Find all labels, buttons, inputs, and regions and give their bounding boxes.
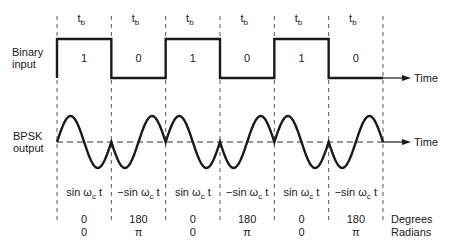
phase-radian-labels: 0π0π0π <box>81 226 360 238</box>
time-arrow-binary-icon <box>402 75 411 81</box>
bit-period-label: tb <box>132 12 140 27</box>
bit-period-label: tb <box>186 12 194 27</box>
phase-radian-value: π <box>352 226 360 238</box>
binary-input-label-line1: Binary <box>12 46 44 58</box>
degrees-label: Degrees <box>391 213 433 225</box>
bpsk-diagram: tbtbtbtbtbtb Binary input 101010 Time BP… <box>0 0 453 250</box>
phase-degree-value: 180 <box>238 213 256 225</box>
bit-period-label: tb <box>240 12 248 27</box>
bit-period-label: tb <box>349 12 357 27</box>
bit-value-label: 1 <box>190 52 196 64</box>
phase-radian-value: 0 <box>190 226 196 238</box>
bit-period-labels: tbtbtbtbtbtb <box>77 12 357 27</box>
bit-value-label: 0 <box>135 52 141 64</box>
signal-expression-label: sin ωc t <box>66 186 102 201</box>
phase-degree-value: 180 <box>347 213 365 225</box>
signal-expression-label: −sin ωc t <box>335 186 377 201</box>
radians-label: Radians <box>391 226 432 238</box>
phase-degree-labels: 018001800180 <box>81 213 365 225</box>
bit-value-label: 0 <box>353 52 359 64</box>
phase-degree-value: 0 <box>81 213 87 225</box>
phase-radian-value: π <box>243 226 251 238</box>
bit-value-label: 1 <box>81 52 87 64</box>
signal-expression-label: sin ωc t <box>175 186 211 201</box>
signal-expression-label: −sin ωc t <box>117 186 159 201</box>
bpsk-output-label-line1: BPSK <box>13 130 43 142</box>
time-arrow-bpsk-icon <box>402 139 411 145</box>
bit-value-label: 1 <box>298 52 304 64</box>
bit-value-label: 0 <box>244 52 250 64</box>
time-label-bpsk: Time <box>414 136 438 148</box>
phase-degree-value: 180 <box>129 213 147 225</box>
bit-period-label: tb <box>295 12 303 27</box>
binary-input-label-line2: input <box>12 58 36 70</box>
phase-radian-value: 0 <box>81 226 87 238</box>
signal-expression-labels: sin ωc t−sin ωc tsin ωc t−sin ωc tsin ωc… <box>66 186 377 201</box>
phase-radian-value: π <box>135 226 143 238</box>
phase-radian-value: 0 <box>298 226 304 238</box>
signal-expression-label: −sin ωc t <box>226 186 268 201</box>
bit-period-label: tb <box>77 12 85 27</box>
binary-input-waveform <box>57 39 383 78</box>
phase-degree-value: 0 <box>298 213 304 225</box>
bpsk-output-label-line2: output <box>13 142 44 154</box>
time-label-binary: Time <box>414 72 438 84</box>
signal-expression-label: sin ωc t <box>284 186 320 201</box>
phase-degree-value: 0 <box>190 213 196 225</box>
binary-waveform-path <box>57 39 383 78</box>
